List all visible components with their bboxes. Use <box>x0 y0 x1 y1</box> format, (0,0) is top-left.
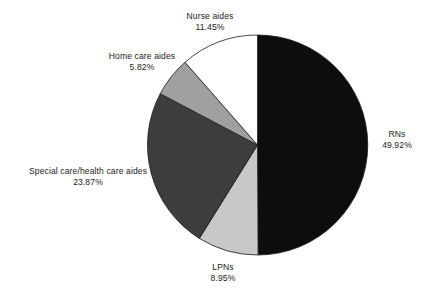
pie-label-nurse-aides: Nurse aides 11.45% <box>154 11 266 33</box>
pie-label-home-care-aides-name: Home care aides <box>84 51 200 62</box>
pie-label-lpns-value: 8.95% <box>184 273 262 284</box>
pie-label-home-care-aides-value: 5.82% <box>84 62 200 73</box>
pie-label-nurse-aides-value: 11.45% <box>154 22 266 33</box>
pie-label-nurse-aides-name: Nurse aides <box>154 11 266 22</box>
pie-chart-figure: Nurse aides 11.45% Home care aides 5.82%… <box>0 0 426 293</box>
pie-label-rns-name: RNs <box>369 129 425 140</box>
pie-label-special-care-health-care-aides-value: 23.87% <box>4 177 172 188</box>
pie-label-special-care-health-care-aides-name: Special care/health care aides <box>4 166 172 177</box>
pie-label-lpns-name: LPNs <box>184 262 262 273</box>
pie-label-special-care-health-care-aides: Special care/health care aides 23.87% <box>4 166 172 188</box>
pie-label-rns-value: 49.92% <box>369 140 425 151</box>
pie-slice-rns[interactable] <box>258 35 368 255</box>
pie-chart-canvas <box>0 0 426 293</box>
pie-label-lpns: LPNs 8.95% <box>184 262 262 284</box>
pie-label-rns: RNs 49.92% <box>369 129 425 151</box>
pie-label-home-care-aides: Home care aides 5.82% <box>84 51 200 73</box>
